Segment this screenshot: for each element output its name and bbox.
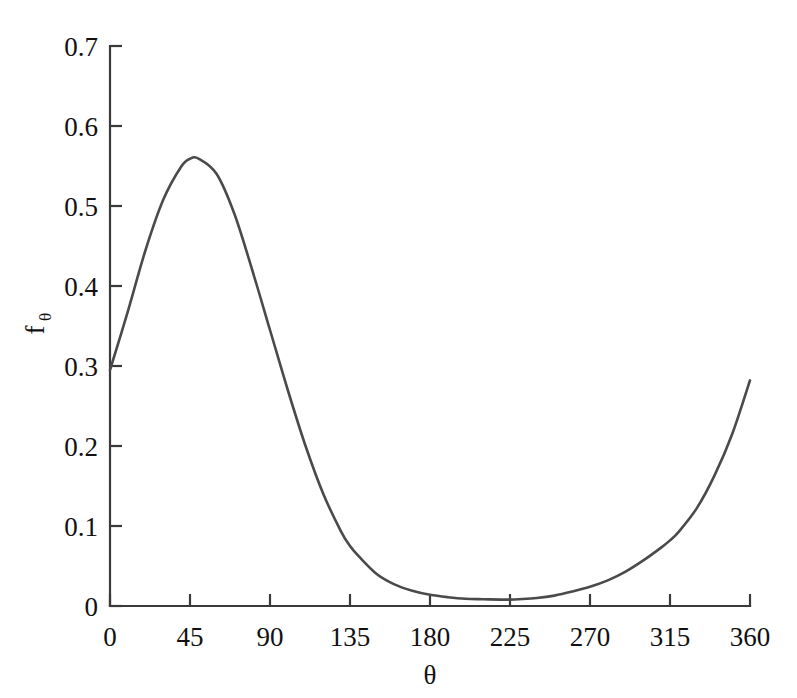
x-tick-label-315: 315	[650, 622, 691, 652]
y-tick-label-0.7: 0.7	[64, 32, 98, 62]
y-tick-label-0.5: 0.5	[64, 192, 98, 222]
y-tick-label-0.3: 0.3	[64, 352, 98, 382]
y-tick-label-0: 0	[85, 592, 99, 622]
y-tick-label-0.2: 0.2	[64, 432, 98, 462]
y-axis-title-subscript: θ	[36, 313, 55, 321]
x-tick-label-180: 180	[410, 622, 451, 652]
x-tick-label-225: 225	[490, 622, 531, 652]
y-tick-label-0.4: 0.4	[64, 272, 98, 302]
x-tick-label-0: 0	[103, 622, 117, 652]
x-tick-label-135: 135	[330, 622, 371, 652]
y-tick-label-0.1: 0.1	[64, 512, 98, 542]
y-tick-label-0.6: 0.6	[64, 112, 98, 142]
y-axis-ticks	[110, 46, 122, 606]
y-axis-title: f θ	[20, 313, 55, 335]
x-tick-label-45: 45	[177, 622, 204, 652]
x-tick-label-270: 270	[570, 622, 611, 652]
y-axis-title-main: f	[20, 326, 50, 335]
x-tick-label-90: 90	[257, 622, 284, 652]
data-curve-f-theta	[110, 157, 750, 599]
y-axis-tick-labels: 0.7 0.6 0.5 0.4 0.3 0.2 0.1 0	[64, 32, 98, 622]
plot-canvas: 0.7 0.6 0.5 0.4 0.3 0.2 0.1 0 0 45 90 1	[0, 0, 797, 698]
x-axis-tick-labels: 0 45 90 135 180 225 270 315 360	[103, 622, 770, 652]
x-axis-title: θ	[424, 660, 437, 690]
x-tick-label-360: 360	[730, 622, 771, 652]
chart-figure: 0.7 0.6 0.5 0.4 0.3 0.2 0.1 0 0 45 90 1	[0, 0, 797, 698]
